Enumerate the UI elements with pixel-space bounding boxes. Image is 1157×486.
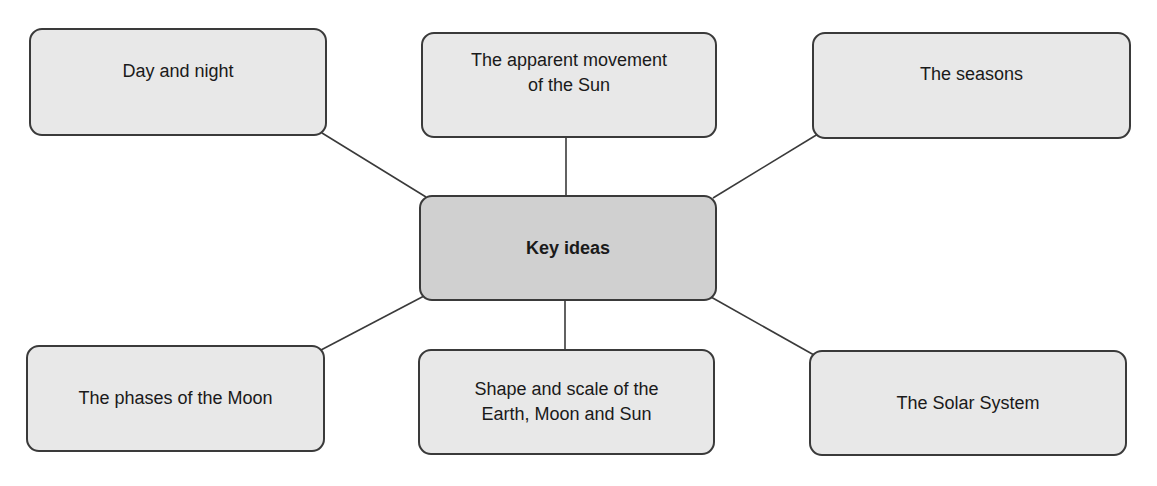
connector-seasons <box>713 134 818 198</box>
node-moon-phases: The phases of the Moon <box>26 345 325 452</box>
connector-solar-system <box>711 297 814 355</box>
node-label: The phases of the Moon <box>78 386 272 411</box>
node-key-ideas: Key ideas <box>419 195 717 301</box>
node-day-night: Day and night <box>29 28 327 136</box>
connector-day-night <box>322 133 426 197</box>
connector-moon-phases <box>321 296 424 350</box>
node-label: Shape and scale of the Earth, Moon and S… <box>456 377 677 427</box>
node-solar-system: The Solar System <box>809 350 1127 456</box>
node-shape-scale: Shape and scale of the Earth, Moon and S… <box>418 349 715 455</box>
node-label: The seasons <box>920 62 1023 87</box>
node-label: The Solar System <box>896 391 1039 416</box>
node-sun-movement: The apparent movement of the Sun <box>421 32 717 138</box>
node-label: The apparent movement of the Sun <box>463 48 675 98</box>
center-label: Key ideas <box>526 236 610 261</box>
node-label: Day and night <box>122 59 233 84</box>
node-seasons: The seasons <box>812 32 1131 139</box>
